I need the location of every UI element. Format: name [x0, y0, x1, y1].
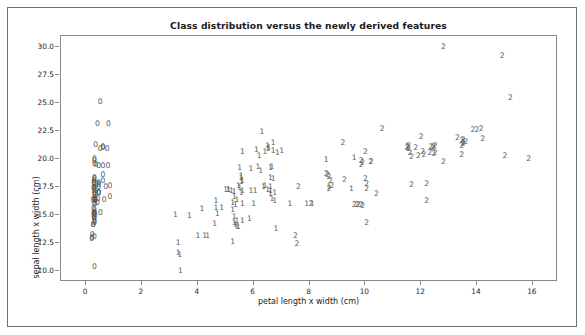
data-point-class-2: 2: [424, 180, 429, 188]
data-point-class-1: 1: [187, 212, 192, 220]
data-point-class-2: 2: [500, 52, 505, 60]
data-point-class-2: 2: [341, 140, 346, 148]
y-tick-mark: [55, 158, 59, 159]
data-point-class-1: 1: [265, 145, 270, 153]
data-point-class-0: 0: [95, 121, 100, 129]
x-tick-label: 4: [194, 287, 199, 296]
data-point-class-0: 0: [96, 183, 101, 191]
x-tick-label: 8: [306, 287, 311, 296]
data-point-class-0: 0: [98, 98, 103, 106]
data-point-class-2: 2: [470, 126, 475, 134]
x-axis-label: petal length x width (cm): [60, 297, 557, 306]
x-tick-mark: [420, 281, 421, 285]
data-point-class-1: 1: [275, 149, 280, 157]
data-point-class-1: 1: [178, 267, 183, 275]
y-tick-label: 12.5: [38, 237, 54, 246]
data-point-class-2: 2: [503, 152, 508, 160]
data-point-class-1: 1: [234, 196, 239, 204]
data-point-class-1: 1: [251, 200, 256, 208]
y-tick-mark: [55, 270, 59, 271]
data-point-class-0: 0: [98, 209, 103, 217]
y-tick-mark: [55, 46, 59, 47]
y-tick-label: 10.0: [38, 265, 54, 274]
y-tick-label: 17.5: [38, 181, 54, 190]
data-point-class-1: 1: [223, 187, 228, 195]
data-point-class-2: 2: [459, 151, 464, 159]
x-tick-mark: [309, 281, 310, 285]
data-point-class-2: 2: [352, 201, 357, 209]
data-point-class-2: 2: [409, 153, 414, 161]
x-tick-mark: [476, 281, 477, 285]
y-tick-label: 27.5: [38, 70, 54, 79]
data-point-class-2: 2: [441, 159, 446, 167]
data-point-class-0: 0: [105, 145, 110, 153]
data-point-class-1: 1: [349, 185, 354, 193]
x-tick-label: 0: [83, 287, 88, 296]
y-tick-label: 15.0: [38, 209, 54, 218]
data-point-class-2: 2: [325, 171, 330, 179]
plot-area: 0000000000000000000000000000000000000000…: [60, 35, 557, 281]
data-point-class-2: 2: [363, 148, 368, 156]
data-point-class-1: 1: [239, 172, 244, 180]
x-tick-label: 10: [360, 287, 369, 296]
data-point-class-1: 1: [173, 211, 178, 219]
y-tick-label: 30.0: [38, 42, 54, 51]
data-point-class-2: 2: [296, 183, 301, 191]
data-point-class-1: 1: [248, 188, 253, 196]
data-point-class-2: 2: [441, 43, 446, 51]
data-point-class-2: 2: [479, 125, 484, 133]
y-tick-label: 25.0: [38, 98, 54, 107]
data-point-class-0: 0: [98, 145, 103, 153]
data-point-class-2: 2: [431, 150, 436, 158]
x-tick-mark: [532, 281, 533, 285]
data-point-class-2: 2: [308, 200, 313, 208]
data-point-class-0: 0: [92, 263, 97, 271]
data-point-class-1: 1: [205, 232, 210, 240]
data-point-class-1: 1: [212, 220, 217, 228]
data-point-class-1: 1: [288, 200, 293, 208]
data-point-class-2: 2: [374, 190, 379, 198]
x-tick-label: 6: [250, 287, 255, 296]
figure-canvas: Class distribution versus the newly deri…: [0, 0, 585, 335]
x-tick-mark: [197, 281, 198, 285]
data-point-class-1: 1: [274, 226, 279, 234]
data-point-class-2: 2: [461, 139, 466, 147]
x-tick-mark: [141, 281, 142, 285]
data-point-class-0: 0: [92, 233, 97, 241]
data-point-class-2: 2: [424, 198, 429, 206]
data-point-class-2: 2: [329, 183, 334, 191]
x-tick-label: 14: [471, 287, 480, 296]
y-tick-mark: [55, 130, 59, 131]
y-tick-mark: [55, 102, 59, 103]
x-tick-mark: [85, 281, 86, 285]
y-tick-mark: [55, 74, 59, 75]
data-point-class-0: 0: [107, 193, 112, 201]
data-point-class-1: 1: [236, 223, 241, 231]
x-tick-label: 2: [139, 287, 144, 296]
data-point-class-2: 2: [526, 155, 531, 163]
data-point-class-0: 0: [92, 174, 97, 182]
data-point-class-2: 2: [342, 176, 347, 184]
y-tick-label: 22.5: [38, 126, 54, 135]
data-point-class-2: 2: [420, 148, 425, 156]
data-point-class-1: 1: [269, 195, 274, 203]
y-axis-tick-labels: 10.012.515.017.520.022.525.027.530.0: [20, 35, 54, 281]
x-tick-label: 16: [527, 287, 536, 296]
data-point-class-0: 0: [93, 161, 98, 169]
data-point-class-2: 2: [369, 159, 374, 167]
data-point-class-2: 2: [380, 125, 385, 133]
data-point-class-0: 0: [100, 171, 105, 179]
x-tick-label: 12: [415, 287, 424, 296]
data-point-class-0: 0: [105, 162, 110, 170]
y-tick-mark: [55, 242, 59, 243]
chart-title: Class distribution versus the newly deri…: [60, 20, 557, 31]
data-point-class-1: 1: [271, 175, 276, 183]
y-tick-mark: [55, 186, 59, 187]
data-point-class-1: 1: [247, 216, 252, 224]
data-point-class-0: 0: [92, 218, 97, 226]
data-point-class-1: 1: [200, 206, 205, 214]
data-point-class-2: 2: [480, 135, 485, 143]
data-point-class-1: 1: [324, 156, 329, 164]
data-point-class-2: 2: [406, 145, 411, 153]
data-point-class-2: 2: [419, 133, 424, 141]
